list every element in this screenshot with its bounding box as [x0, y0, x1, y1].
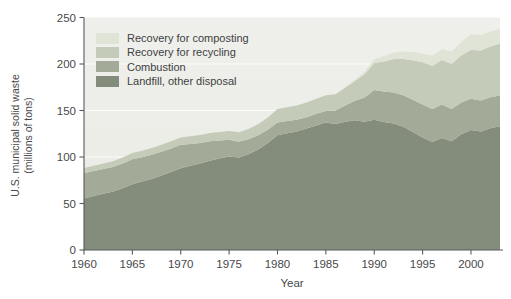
- y-tick-label-200: 200: [57, 58, 76, 70]
- legend-item-composting: Recovery for composting: [96, 31, 249, 45]
- y-axis-title-line1: U.S. municipal solid waste: [9, 26, 22, 246]
- x-axis-title: Year: [84, 277, 500, 289]
- combustion-swatch-icon: [96, 61, 119, 72]
- composting-swatch-icon: [96, 33, 119, 44]
- y-axis-title-line2: (millions of tons): [21, 26, 34, 246]
- legend-label: Combustion: [127, 61, 186, 73]
- recycling-swatch-icon: [96, 47, 119, 58]
- y-tick-label-0: 0: [70, 244, 76, 256]
- x-tick-label-2000: 2000: [458, 258, 484, 270]
- legend-item-landfill: Landfill, other disposal: [96, 74, 249, 88]
- stacked-area-chart-figure: 0501001502002501960196519701975198019851…: [0, 0, 511, 299]
- y-axis-title: U.S. municipal solid waste (millions of …: [9, 26, 34, 246]
- legend-label: Recovery for composting: [127, 32, 249, 44]
- legend-item-combustion: Combustion: [96, 60, 249, 74]
- x-tick-label-1975: 1975: [216, 258, 242, 270]
- chart-plot-area: 0501001502002501960196519701975198019851…: [0, 0, 511, 299]
- y-tick-label-250: 250: [57, 12, 76, 24]
- y-tick-label-50: 50: [63, 198, 76, 210]
- x-tick-label-1980: 1980: [265, 258, 291, 270]
- x-tick-label-1985: 1985: [313, 258, 339, 270]
- x-tick-label-1965: 1965: [120, 258, 146, 270]
- x-tick-label-1990: 1990: [361, 258, 387, 270]
- x-tick-label-1970: 1970: [168, 258, 194, 270]
- y-tick-label-100: 100: [57, 151, 76, 163]
- x-tick-label-1995: 1995: [410, 258, 436, 270]
- chart-legend: Recovery for composting Recovery for rec…: [96, 31, 249, 88]
- y-tick-label-150: 150: [57, 105, 76, 117]
- legend-label: Recovery for recycling: [127, 46, 236, 58]
- legend-item-recycling: Recovery for recycling: [96, 45, 249, 59]
- legend-label: Landfill, other disposal: [127, 75, 236, 87]
- landfill-swatch-icon: [96, 76, 119, 87]
- x-tick-label-1960: 1960: [71, 258, 97, 270]
